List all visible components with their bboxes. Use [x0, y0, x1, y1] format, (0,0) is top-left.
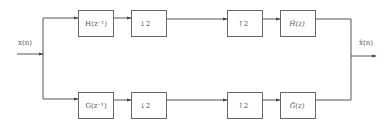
output-signal-label: x̂(n): [359, 39, 373, 47]
filter-bank-diagram: H(z⁻¹) ↓2 ↑2 H̃(z) G(z⁻¹) ↓2 ↑2 G̃(z) x(…: [0, 0, 391, 123]
synthesis-filter-gtilde-block: G̃(z): [281, 93, 316, 119]
downsampler-top-block: ↓2: [132, 11, 167, 37]
analysis-filter-g-block: G(z⁻¹): [79, 93, 114, 119]
upsampler-bottom-block: ↑2: [228, 93, 263, 119]
downsampler-bottom-label: ↓2: [140, 102, 150, 110]
upsampler-top-block: ↑2: [228, 11, 263, 37]
downsampler-bottom-block: ↓2: [132, 93, 167, 119]
upsampler-top-label: ↑2: [238, 20, 248, 28]
synthesis-filter-htilde-block: H̃(z): [281, 11, 316, 37]
upsampler-bottom-label: ↑2: [238, 102, 248, 110]
input-signal-label: x(n): [18, 39, 32, 47]
synthesis-filter-htilde-label: H̃(z): [288, 19, 305, 28]
analysis-filter-h-label: H(z⁻¹): [85, 20, 107, 28]
synthesis-filter-gtilde-label: G̃(z): [290, 101, 305, 110]
analysis-filter-h-block: H(z⁻¹): [79, 11, 114, 37]
analysis-filter-g-label: G(z⁻¹): [85, 102, 107, 110]
downsampler-top-label: ↓2: [140, 20, 150, 28]
